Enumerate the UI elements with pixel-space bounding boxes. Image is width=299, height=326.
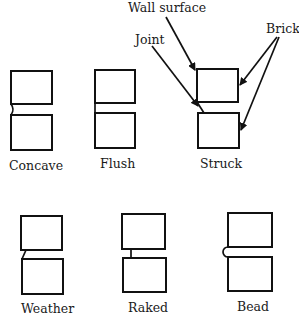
brick-bottom bbox=[123, 258, 166, 292]
brick-top bbox=[95, 70, 135, 103]
callout-brick: Brick bbox=[266, 21, 299, 36]
joint-flush: Flush bbox=[95, 70, 135, 171]
joint-struck: Struck bbox=[197, 69, 243, 171]
callout-wall-surface: Wall surface bbox=[128, 0, 206, 15]
brick-top bbox=[11, 71, 52, 104]
concave-joint-profile bbox=[11, 104, 13, 115]
brick-top bbox=[228, 213, 272, 247]
callout-joint: Joint bbox=[133, 32, 165, 47]
arrow-wall-surface bbox=[166, 17, 195, 70]
joint-weather: Weather bbox=[21, 216, 74, 316]
label-raked: Raked bbox=[128, 300, 168, 315]
label-flush: Flush bbox=[100, 156, 135, 171]
weather-joint-profile bbox=[22, 250, 26, 259]
brick-top bbox=[21, 216, 62, 250]
callouts: Wall surface Joint Brick bbox=[128, 0, 299, 130]
brick-bottom bbox=[95, 113, 135, 148]
joint-raked: Raked bbox=[122, 214, 168, 315]
joint-bead: Bead bbox=[223, 213, 272, 314]
label-struck: Struck bbox=[200, 156, 243, 171]
brick-bottom bbox=[198, 113, 239, 148]
label-weather: Weather bbox=[21, 301, 74, 316]
brick-bottom bbox=[11, 115, 52, 150]
struck-joint-profile bbox=[197, 102, 204, 113]
bead-joint-profile bbox=[223, 247, 228, 257]
arrow-brick-bottom bbox=[241, 37, 279, 130]
brick-top bbox=[122, 214, 165, 249]
brick-top bbox=[197, 69, 238, 102]
brick-bottom bbox=[22, 259, 63, 294]
brick-bottom bbox=[228, 257, 272, 291]
label-bead: Bead bbox=[237, 299, 269, 314]
joint-concave: Concave bbox=[9, 71, 63, 173]
arrow-joint bbox=[152, 46, 198, 106]
mortar-joints-diagram: Concave Flush Struck Wall surface Joint … bbox=[0, 0, 299, 326]
arrow-brick-top bbox=[240, 37, 277, 85]
label-concave: Concave bbox=[9, 158, 63, 173]
